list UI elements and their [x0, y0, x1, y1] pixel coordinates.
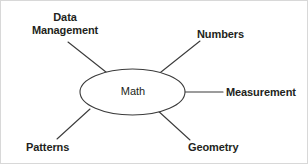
connector-line-patterns	[57, 109, 90, 139]
node-label-geometry: Geometry	[188, 141, 268, 154]
node-label-numbers: Numbers	[197, 28, 267, 41]
connector-line-numbers	[156, 41, 200, 76]
concept-map-canvas: Math Data Management Numbers Measurement…	[0, 0, 308, 164]
node-label-measurement: Measurement	[226, 86, 306, 99]
node-label-patterns: Patterns	[26, 141, 96, 154]
connector-line-data-management	[68, 42, 111, 76]
node-label-data-management: Data Management	[13, 11, 117, 37]
connector-line-geometry	[156, 109, 190, 140]
center-node-label: Math	[80, 85, 186, 98]
